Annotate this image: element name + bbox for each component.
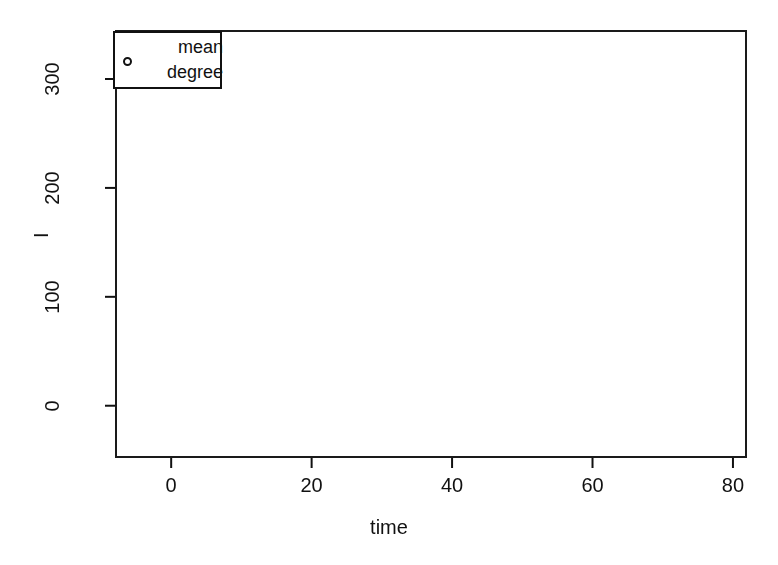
x-tick-label: 80 (722, 474, 744, 497)
x-tick-label: 40 (441, 474, 463, 497)
x-tick-label: 20 (300, 474, 322, 497)
figure-root: mean degree time I 0204060800100200300 (0, 0, 778, 565)
y-tick-label: 0 (41, 400, 64, 411)
x-tick-label: 0 (166, 474, 177, 497)
legend-label-line2: degree (143, 60, 223, 85)
y-tick-label: 300 (41, 62, 64, 95)
legend-label: mean degree (143, 35, 223, 85)
y-axis-title: I (30, 232, 53, 238)
x-tick-label: 60 (581, 474, 603, 497)
x-axis-title: time (0, 516, 778, 539)
legend-box: mean degree (113, 31, 222, 89)
y-tick-label: 100 (41, 280, 64, 313)
legend-circle-icon (123, 57, 132, 66)
plot-frame (115, 30, 747, 458)
y-tick-label: 200 (41, 171, 64, 204)
legend-label-line1: mean (143, 35, 223, 60)
